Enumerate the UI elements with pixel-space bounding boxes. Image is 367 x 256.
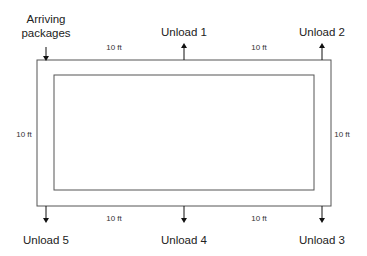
arriving-label-line1: Arriving: [27, 13, 66, 25]
dimension-top-left: 10 ft: [106, 43, 122, 52]
unload-4-label: Unload 4: [161, 234, 208, 246]
dimension-bottom-left: 10 ft: [106, 214, 122, 223]
unload-3-label: Unload 3: [299, 234, 345, 246]
dimension-left: 10 ft: [16, 130, 32, 139]
unload-5-label: Unload 5: [23, 234, 69, 246]
dimension-top-right: 10 ft: [251, 43, 267, 52]
dimension-bottom-right: 10 ft: [251, 214, 267, 223]
unload-1-arrow-icon: [181, 43, 187, 60]
unload-3-arrow-icon: [319, 206, 325, 223]
inner-conveyor-loop: [54, 75, 314, 190]
unload-2-label: Unload 2: [299, 26, 345, 38]
conveyor-layout-diagram: Arriving packages Unload 1 Unload 2 Unlo…: [0, 0, 367, 256]
unload-2-arrow-icon: [319, 43, 325, 60]
dimension-right: 10 ft: [334, 130, 350, 139]
outer-conveyor-loop: [37, 60, 331, 206]
arriving-packages-arrow-icon: [43, 47, 49, 61]
unload-5-arrow-icon: [43, 206, 49, 223]
unload-4-arrow-icon: [181, 206, 187, 223]
arriving-label-line2: packages: [21, 27, 70, 39]
unload-1-label: Unload 1: [161, 26, 207, 38]
